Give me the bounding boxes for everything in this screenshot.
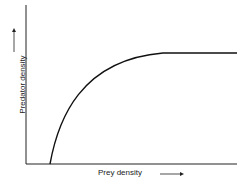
x-arrowhead-icon [180, 172, 184, 176]
chart [0, 0, 247, 189]
y-axis-label: Predator density [18, 35, 27, 135]
y-arrowhead-icon [12, 28, 16, 32]
x-axis-label: Prey density [98, 168, 142, 177]
curve [50, 53, 237, 164]
